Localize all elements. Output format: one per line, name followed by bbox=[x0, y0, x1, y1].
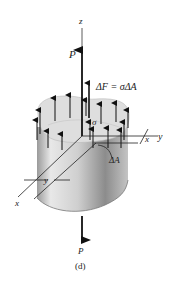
y-axis-label: y bbox=[157, 131, 163, 142]
cross-section-face bbox=[38, 96, 129, 143]
area-element-label: ΔA bbox=[108, 155, 120, 165]
force-element-label: ΔF = σΔA bbox=[95, 81, 138, 92]
load-label-bottom: P bbox=[77, 246, 84, 256]
load-label-top: P bbox=[68, 48, 76, 60]
x-axis-label-right: x bbox=[144, 134, 149, 144]
stress-label: σ bbox=[92, 117, 97, 127]
figure-caption: (d) bbox=[75, 261, 86, 271]
z-axis-label: z bbox=[78, 16, 83, 26]
stress-distribution-diagram: z P ΔF = σΔA σ y x ΔA y x P (d) bbox=[0, 0, 173, 284]
y-dimension-label: y bbox=[43, 175, 48, 185]
x-axis-label-left: x bbox=[14, 198, 19, 208]
